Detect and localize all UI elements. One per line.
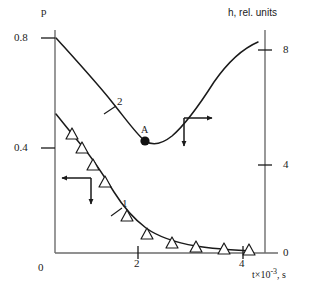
data-marker-triangle <box>76 142 88 153</box>
curve-2-path <box>56 38 258 144</box>
data-marker-triangle <box>243 244 255 255</box>
axis-lines <box>55 30 278 253</box>
curve-1-label: 1 <box>122 198 128 209</box>
curve-2-axis-arrows <box>184 118 212 146</box>
right-axis-tick-label: 8 <box>283 44 289 55</box>
x-axis-title-base: t×10 <box>252 269 270 280</box>
right-axis-tick-label: 0 <box>283 247 289 258</box>
plot-canvas <box>0 0 312 293</box>
right-axis-tick-label: 4 <box>283 159 289 170</box>
chart-figure: p h, rel. units t×10-3, s 0.8 0.4 0 8 4 … <box>0 0 312 293</box>
x-axis-tick-label: 4 <box>239 258 245 269</box>
left-axis-ticks <box>41 38 55 148</box>
curve-1-leader-line <box>111 208 122 216</box>
x-axis-title-suffix: , s <box>277 269 286 280</box>
left-axis-title: p <box>41 6 47 17</box>
x-axis-title: t×10-3, s <box>252 270 286 280</box>
curve-1-path <box>56 114 252 251</box>
data-marker-triangle <box>141 228 153 239</box>
data-marker-triangle <box>99 176 111 187</box>
x-axis-tick-label: 2 <box>134 258 140 269</box>
point-a-marker <box>140 136 149 145</box>
curve-2-leader-line <box>104 106 116 114</box>
left-axis-tick-label: 0 <box>38 262 44 273</box>
curve-1-axis-arrows <box>62 178 91 204</box>
data-marker-triangle <box>87 159 99 170</box>
left-axis-tick-label: 0.8 <box>14 32 28 43</box>
right-axis-title: h, rel. units <box>228 8 277 18</box>
left-axis-tick-label: 0.4 <box>14 142 28 153</box>
curve-2-label: 2 <box>117 96 123 107</box>
point-a-label: A <box>141 125 148 135</box>
